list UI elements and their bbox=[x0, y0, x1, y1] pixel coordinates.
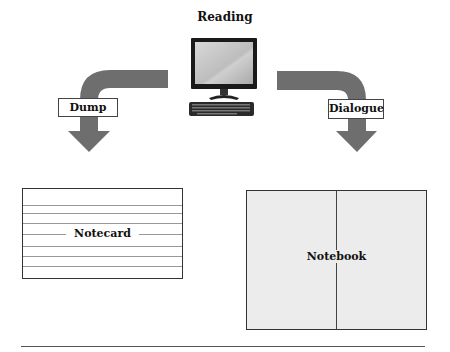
card-line bbox=[23, 246, 182, 247]
notecard-label: Notecard bbox=[66, 227, 139, 240]
bottom-rule bbox=[21, 346, 425, 347]
card-line bbox=[23, 256, 182, 257]
dialogue-label: Dialogue bbox=[328, 99, 384, 119]
notebook: Notebook bbox=[246, 190, 427, 330]
card-line bbox=[23, 213, 182, 214]
notecard: Notecard bbox=[22, 188, 183, 279]
dump-label: Dump bbox=[58, 98, 118, 117]
card-line bbox=[23, 266, 182, 267]
notebook-label: Notebook bbox=[305, 250, 368, 263]
card-line bbox=[23, 223, 182, 224]
card-line bbox=[23, 205, 182, 206]
